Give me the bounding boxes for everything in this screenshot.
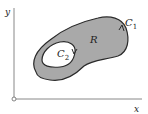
inner-curve-label: C2 xyxy=(57,48,69,62)
y-axis-label: y xyxy=(4,7,11,17)
green-theorem-diagram: y x R C1 C2 xyxy=(0,0,148,114)
x-axis-label: x xyxy=(134,104,139,114)
region-r xyxy=(34,17,128,80)
origin-marker xyxy=(12,97,16,101)
region-label: R xyxy=(89,34,98,45)
